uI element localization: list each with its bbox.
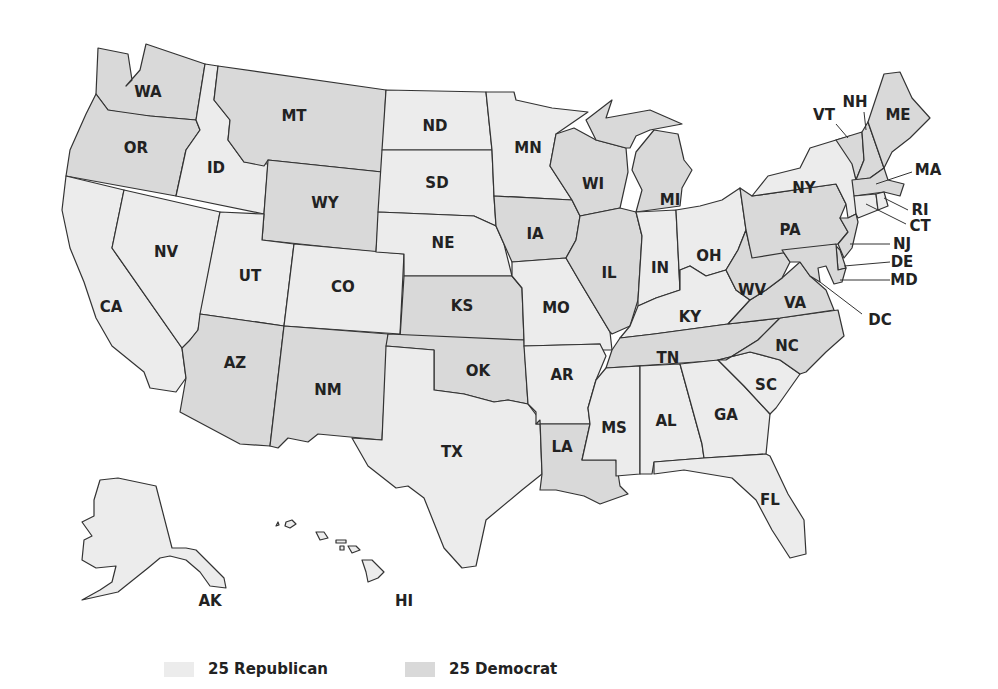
label-al: AL bbox=[655, 412, 677, 430]
label-nc: NC bbox=[775, 337, 799, 355]
label-md: MD bbox=[890, 271, 917, 289]
state-hi-lanai[interactable] bbox=[340, 546, 344, 550]
label-ok: OK bbox=[466, 362, 492, 380]
label-la: LA bbox=[551, 438, 573, 456]
state-hi-big[interactable] bbox=[362, 560, 384, 582]
label-dc: DC bbox=[868, 311, 891, 329]
leader-de bbox=[844, 262, 890, 266]
state-hi-molokai[interactable] bbox=[336, 540, 346, 543]
state-hi-niihau[interactable] bbox=[276, 522, 279, 526]
legend-label-democrat: 25 Democrat bbox=[449, 660, 557, 678]
label-tn: TN bbox=[657, 349, 680, 367]
label-vt: VT bbox=[813, 106, 836, 124]
label-nm: NM bbox=[314, 381, 341, 399]
label-wy: WY bbox=[311, 194, 340, 212]
label-de: DE bbox=[891, 253, 914, 271]
label-ky: KY bbox=[679, 308, 703, 326]
label-ut: UT bbox=[239, 267, 262, 285]
label-hi: HI bbox=[395, 592, 413, 610]
legend-republican: 25 Republican bbox=[164, 660, 328, 678]
label-ny: NY bbox=[792, 179, 817, 197]
legend-label-republican: 25 Republican bbox=[208, 660, 328, 678]
legend-swatch-republican bbox=[164, 662, 194, 677]
label-nj: NJ bbox=[893, 235, 911, 253]
label-az: AZ bbox=[224, 354, 247, 372]
label-va: VA bbox=[784, 294, 807, 312]
label-mt: MT bbox=[281, 107, 307, 125]
label-nv: NV bbox=[154, 243, 179, 261]
label-ms: MS bbox=[601, 419, 627, 437]
label-il: IL bbox=[601, 264, 617, 282]
label-id: ID bbox=[207, 159, 225, 177]
label-sd: SD bbox=[425, 174, 448, 192]
label-mn: MN bbox=[514, 139, 541, 157]
label-ca: CA bbox=[100, 298, 123, 316]
label-wi: WI bbox=[582, 175, 604, 193]
label-mo: MO bbox=[542, 299, 570, 317]
label-ks: KS bbox=[451, 297, 473, 315]
label-ar: AR bbox=[550, 366, 574, 384]
label-nh: NH bbox=[842, 93, 867, 111]
label-co: CO bbox=[331, 278, 355, 296]
state-fl[interactable] bbox=[654, 454, 806, 558]
label-wa: WA bbox=[134, 83, 162, 101]
label-sc: SC bbox=[755, 376, 777, 394]
state-ak[interactable] bbox=[82, 478, 226, 600]
label-ct: CT bbox=[909, 217, 931, 235]
legend-democrat: 25 Democrat bbox=[405, 660, 557, 678]
label-ak: AK bbox=[198, 592, 223, 610]
label-wv: WV bbox=[738, 281, 767, 299]
leader-vt bbox=[836, 124, 848, 138]
state-az[interactable] bbox=[180, 314, 284, 446]
label-pa: PA bbox=[779, 221, 801, 239]
label-ga: GA bbox=[714, 406, 738, 424]
label-ne: NE bbox=[432, 234, 455, 252]
state-ri[interactable] bbox=[876, 192, 888, 210]
legend-swatch-democrat bbox=[405, 662, 435, 677]
state-hi-oahu[interactable] bbox=[316, 532, 328, 540]
label-fl: FL bbox=[760, 491, 780, 509]
label-nd: ND bbox=[422, 117, 447, 135]
label-ma: MA bbox=[915, 161, 942, 179]
label-ia: IA bbox=[526, 225, 544, 243]
label-oh: OH bbox=[696, 247, 721, 265]
label-tx: TX bbox=[441, 443, 463, 461]
label-in: IN bbox=[651, 259, 669, 277]
state-ct[interactable] bbox=[854, 194, 878, 218]
label-or: OR bbox=[124, 139, 149, 157]
state-hi-kauai[interactable] bbox=[285, 520, 296, 528]
state-hi-maui[interactable] bbox=[348, 546, 360, 553]
us-map: WA OR CA ID NV MT WY UT CO AZ NM ND SD N… bbox=[0, 0, 998, 689]
label-me: ME bbox=[885, 106, 910, 124]
label-mi: MI bbox=[660, 191, 681, 209]
